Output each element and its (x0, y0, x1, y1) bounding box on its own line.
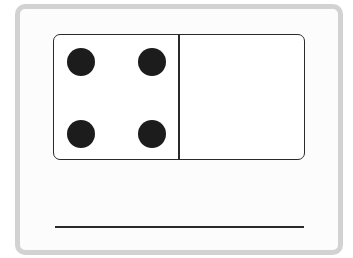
domino-tile (53, 34, 305, 160)
dot-icon (138, 120, 166, 148)
dot-icon (138, 48, 166, 76)
dot-icon (67, 48, 95, 76)
dot-icon (67, 120, 95, 148)
answer-line[interactable] (55, 226, 304, 228)
domino-divider (178, 35, 180, 159)
